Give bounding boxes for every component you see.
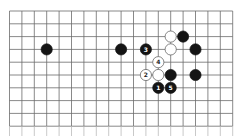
black-stone [165,69,176,80]
move-number: 3 [144,46,148,53]
white-stone [153,69,164,80]
white-stone-icon [165,31,176,42]
white-stone [165,31,176,42]
white-stone-move-4: 4 [153,57,164,68]
move-number: 4 [156,58,160,65]
white-stone [165,44,176,55]
go-board: 34215 [0,0,242,139]
move-number: 2 [144,71,148,78]
black-stone [190,44,201,55]
black-stone-icon [190,44,201,55]
black-stone [41,44,52,55]
black-stone [178,31,189,42]
black-stone-icon [165,69,176,80]
white-stone-icon [165,44,176,55]
black-stone-icon [116,44,127,55]
black-stone-move-1: 1 [153,82,164,93]
black-stone [116,44,127,55]
white-stone-icon [153,69,164,80]
black-stone-icon [178,31,189,42]
move-number: 5 [169,84,173,91]
black-stone-move-5: 5 [165,82,176,93]
white-stone-move-2: 2 [140,69,151,80]
black-stone-icon [190,69,201,80]
black-stone-move-3: 3 [140,44,151,55]
black-stone-icon [41,44,52,55]
move-number: 1 [156,84,160,91]
black-stone [190,69,201,80]
